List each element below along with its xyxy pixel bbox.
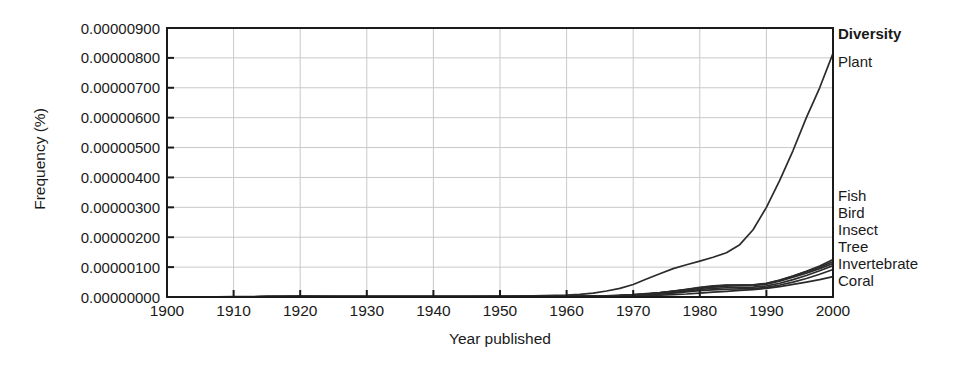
- legend-item-tree: Tree: [838, 239, 868, 254]
- x-axis-tick-label: 1980: [670, 303, 730, 319]
- x-axis-tick-label: 1930: [337, 303, 397, 319]
- legend-item-coral: Coral: [838, 273, 874, 288]
- x-axis-tick-label: 1960: [537, 303, 597, 319]
- y-axis-tick-label: 0.00000200: [81, 230, 160, 245]
- y-axis-tick-label: 0.00000300: [81, 200, 160, 215]
- x-axis-tick-label: 1940: [403, 303, 463, 319]
- y-axis-tick-label: 0.00000600: [81, 110, 160, 125]
- chart-figure: Frequency (%) 0.000000000.000001000.0000…: [0, 0, 973, 368]
- legend-item-insect: Insect: [838, 222, 878, 237]
- x-axis-tick-label: 1950: [470, 303, 530, 319]
- y-axis-tick-label: 0.00000800: [81, 50, 160, 65]
- y-axis-tick-label: 0.00000700: [81, 80, 160, 95]
- legend-item-invertebrate: Invertebrate: [838, 256, 918, 271]
- y-axis-tick-label: 0.00000100: [81, 260, 160, 275]
- legend-item-fish: Fish: [838, 188, 866, 203]
- legend-item-plant: Plant: [838, 54, 872, 69]
- x-axis-tick-label: 1970: [603, 303, 663, 319]
- x-axis-title: Year published: [167, 330, 833, 348]
- x-axis-tick-label: 1990: [736, 303, 796, 319]
- legend: DiversityPlantFishBirdInsectTreeInverteb…: [838, 0, 973, 368]
- x-axis-tick-label: 1900: [137, 303, 197, 319]
- y-axis-tick-label: 0.00000400: [81, 170, 160, 185]
- y-axis-tick-label: 0.00000900: [81, 21, 160, 36]
- y-axis-tick-label: 0.00000500: [81, 140, 160, 155]
- legend-title: Diversity: [838, 26, 901, 41]
- x-axis-tick-label: 1910: [204, 303, 264, 319]
- legend-item-bird: Bird: [838, 205, 865, 220]
- x-axis-tick-label: 1920: [270, 303, 330, 319]
